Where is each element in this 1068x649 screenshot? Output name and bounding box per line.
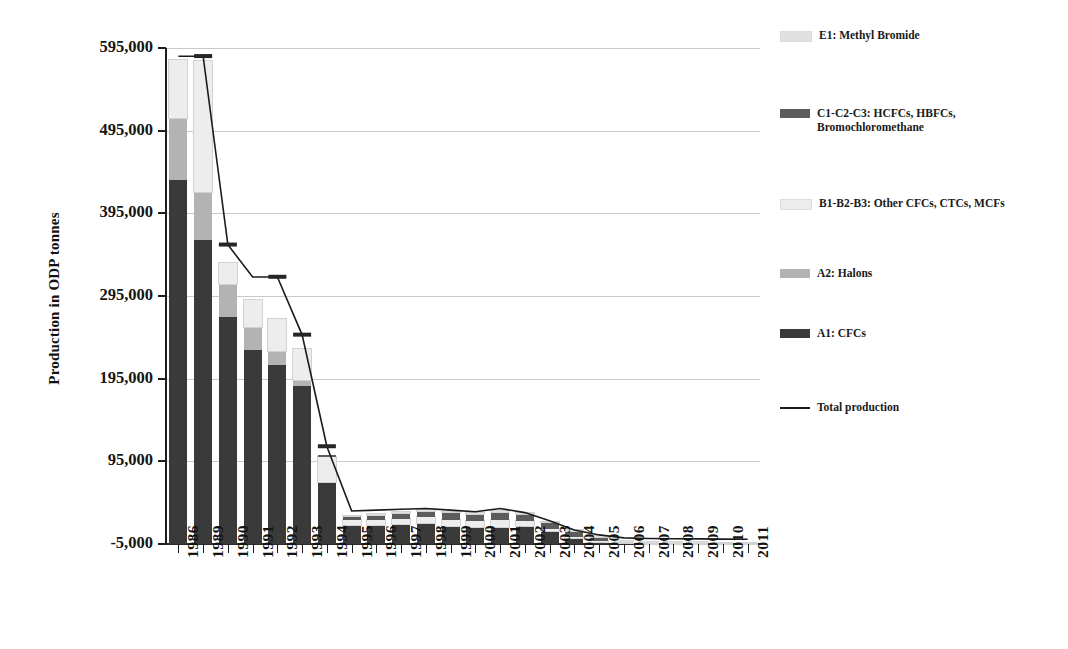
bar-segment xyxy=(169,60,187,118)
x-axis-tick xyxy=(649,544,650,553)
bar-segment xyxy=(244,327,262,350)
bar-segment xyxy=(293,380,311,386)
bar-segment xyxy=(392,512,410,513)
y-axis-tick-label: 395,000 xyxy=(33,202,153,222)
bar-segment xyxy=(442,512,460,513)
y-axis-tick xyxy=(158,460,166,462)
x-axis-tick xyxy=(624,544,625,553)
bar-group[interactable] xyxy=(244,300,262,544)
bar-segment xyxy=(268,351,286,366)
bar-segment xyxy=(169,118,187,180)
bar-segment xyxy=(367,514,385,515)
x-axis-tick xyxy=(698,544,699,553)
bar-segment xyxy=(491,512,509,520)
y-axis-tick xyxy=(158,378,166,380)
bar-segment xyxy=(219,263,237,284)
bar-segment xyxy=(367,520,385,525)
x-axis-tick-label: 2003 xyxy=(556,525,574,558)
legend-item[interactable]: B1-B2-B3: Other CFCs, CTCs, MCFs xyxy=(780,196,1005,210)
gridline xyxy=(166,131,760,132)
x-axis-tick xyxy=(253,544,254,553)
bar-group[interactable] xyxy=(169,60,187,544)
legend-swatch-icon xyxy=(780,269,810,278)
x-axis-tick-label: 2009 xyxy=(704,525,722,558)
x-axis-tick-label: 2005 xyxy=(605,525,623,558)
x-axis-tick-label: 2007 xyxy=(655,525,673,558)
legend-swatch-icon xyxy=(780,329,810,338)
bar-segment xyxy=(219,284,237,317)
x-axis-tick xyxy=(673,544,674,553)
x-axis-tick xyxy=(327,544,328,553)
x-axis-tick-label: 1999 xyxy=(457,525,475,558)
bar-segment xyxy=(491,511,509,512)
legend-item[interactable]: C1-C2-C3: HCFCs, HBFCs, Bromochlorometha… xyxy=(780,106,1052,134)
bar-segment xyxy=(194,240,212,544)
y-axis-tick-label: 295,000 xyxy=(33,285,153,305)
x-axis-tick xyxy=(277,544,278,553)
x-axis-tick-label: 2004 xyxy=(580,525,598,558)
y-axis-tick xyxy=(158,47,166,49)
bar-segment xyxy=(318,457,336,482)
legend-item[interactable]: A2: Halons xyxy=(780,266,872,280)
y-axis-tick xyxy=(158,295,166,297)
legend-swatch-icon xyxy=(780,109,810,118)
x-axis-tick-label: 2010 xyxy=(729,525,747,558)
bar-segment xyxy=(392,513,410,519)
x-axis-tick-label: 2001 xyxy=(506,525,524,558)
bar-segment xyxy=(466,514,484,521)
bar-group[interactable] xyxy=(219,263,237,544)
y-axis-tick-label: -5,000 xyxy=(33,533,153,553)
chart-figure: Production in ODP tonnes 198619891990199… xyxy=(0,0,1068,649)
x-axis-tick xyxy=(525,544,526,553)
bar-segment xyxy=(318,482,336,483)
x-axis-tick xyxy=(352,544,353,553)
x-axis-tick xyxy=(475,544,476,553)
x-axis-tick xyxy=(574,544,575,553)
bar-segment xyxy=(417,510,435,511)
gridline xyxy=(166,296,760,297)
bar-segment xyxy=(343,516,361,520)
bar-group[interactable] xyxy=(194,61,212,544)
legend-item[interactable]: E1: Methyl Bromide xyxy=(780,28,920,42)
x-axis-tick-label: 2008 xyxy=(679,525,697,558)
x-axis-tick xyxy=(748,544,749,553)
y-axis-tick-label: 495,000 xyxy=(33,120,153,140)
legend-item-label: A1: CFCs xyxy=(817,326,866,340)
x-axis-tick xyxy=(302,544,303,553)
y-axis-tick-label: 195,000 xyxy=(33,368,153,388)
x-axis-tick-label: 1996 xyxy=(382,525,400,558)
gridline xyxy=(166,48,760,49)
x-axis-tick-label: 1995 xyxy=(358,525,376,558)
bar-segment xyxy=(194,61,212,192)
legend-item[interactable]: A1: CFCs xyxy=(780,326,866,340)
x-axis-tick xyxy=(500,544,501,553)
bar-group[interactable] xyxy=(268,319,286,544)
x-axis-tick-label: 1993 xyxy=(308,525,326,558)
x-axis-tick-label: 2002 xyxy=(531,525,549,558)
x-axis-tick-label: 1991 xyxy=(259,525,277,558)
y-axis-tick-label: 95,000 xyxy=(33,450,153,470)
x-axis-tick-label: 1998 xyxy=(432,525,450,558)
x-axis-tick xyxy=(401,544,402,553)
gridline xyxy=(166,213,760,214)
legend-item-label: B1-B2-B3: Other CFCs, CTCs, MCFs xyxy=(819,196,1005,210)
x-axis-tick-label: 1989 xyxy=(209,525,227,558)
legend-item-label: E1: Methyl Bromide xyxy=(819,28,920,42)
bar-segment xyxy=(318,455,336,457)
bar-segment xyxy=(293,386,311,544)
bar-segment xyxy=(417,517,435,523)
legend-item[interactable]: Total production xyxy=(780,400,899,414)
x-axis-tick xyxy=(599,544,600,553)
x-axis-tick-label: 2000 xyxy=(481,525,499,558)
bar-segment xyxy=(343,516,361,517)
bar-segment xyxy=(417,511,435,518)
bar-segment xyxy=(169,180,187,544)
legend-swatch-icon xyxy=(780,199,812,210)
bar-group[interactable] xyxy=(293,349,311,544)
bar-segment xyxy=(541,522,559,523)
bar-segment xyxy=(442,512,460,519)
legend-item-label: C1-C2-C3: HCFCs, HBFCs, Bromochlorometha… xyxy=(817,106,1052,134)
bar-segment xyxy=(268,319,286,350)
x-axis-tick xyxy=(178,544,179,553)
x-axis-tick-label: 1997 xyxy=(407,525,425,558)
